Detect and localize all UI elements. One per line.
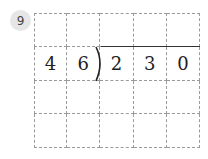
division-bracket-icon <box>93 46 105 82</box>
dividend-digit: 0 <box>167 47 200 81</box>
grid-cell[interactable] <box>34 13 67 47</box>
grid-cell[interactable] <box>67 13 100 47</box>
grid-cell[interactable] <box>34 114 67 148</box>
grid-cell[interactable] <box>100 81 133 115</box>
grid-cell[interactable] <box>167 81 200 115</box>
grid-cell[interactable] <box>100 114 133 148</box>
grid-cell[interactable] <box>134 114 167 148</box>
grid-cell[interactable] <box>134 13 167 47</box>
grid-cell[interactable] <box>67 114 100 148</box>
dividend-digit: 3 <box>134 47 167 81</box>
grid-cell[interactable] <box>167 114 200 148</box>
grid-cell[interactable] <box>67 81 100 115</box>
grid-cell[interactable] <box>100 13 133 47</box>
grid-cell[interactable] <box>34 81 67 115</box>
long-division-grid: 4 6 2 3 0 <box>34 13 200 148</box>
grid-cell[interactable] <box>167 13 200 47</box>
dividend-digit: 2 <box>100 47 133 81</box>
grid-cell[interactable] <box>134 81 167 115</box>
division-bar <box>101 46 200 47</box>
problem-number-badge: 9 <box>10 10 31 31</box>
divisor-digit: 4 <box>34 47 67 81</box>
